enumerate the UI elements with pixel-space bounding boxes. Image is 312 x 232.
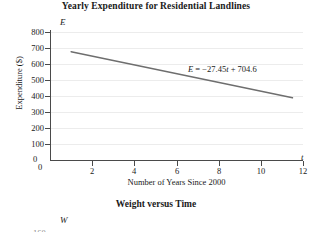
- data-line-expenditure: [50, 32, 303, 160]
- y-tick-label-160: 160: [33, 228, 46, 232]
- y-axis-line: [50, 30, 51, 161]
- y-tick-label-200: 200: [4, 124, 44, 133]
- equation-equals: =: [195, 64, 200, 74]
- x-tick-label-12: 12: [291, 167, 312, 176]
- y-tick-label-600: 600: [4, 60, 44, 69]
- y-tick-300: [45, 112, 50, 113]
- x-axis-title: Number of Years Since 2000: [50, 177, 303, 187]
- y-tick-label-300: 300: [4, 108, 44, 117]
- y-tick-label-100: 100: [4, 140, 44, 149]
- y-tick-label-500: 500: [4, 76, 44, 85]
- plot-area: [50, 32, 303, 160]
- y-tick-label-700: 700: [4, 44, 44, 53]
- expenditure-chart-figure: Yearly Expenditure for Residential Landl…: [0, 0, 312, 190]
- y-axis-variable-label: E: [60, 17, 66, 27]
- y-tick-600: [45, 64, 50, 65]
- x-tick-label-4: 4: [122, 167, 146, 176]
- x-tick-label-2: 2: [80, 167, 104, 176]
- y-tick-200: [45, 128, 50, 129]
- y-origin-label: 0: [33, 154, 37, 164]
- x-tick-label-8: 8: [207, 167, 231, 176]
- y-tick-700: [45, 48, 50, 49]
- y-axis-variable-label-2: W: [60, 215, 68, 225]
- x-origin-label: 0: [38, 162, 42, 172]
- chart-title: Yearly Expenditure for Residential Landl…: [0, 1, 312, 11]
- equation-lhs: E: [188, 64, 193, 74]
- y-axis-title: Expenditure ($): [14, 28, 24, 138]
- weight-versus-time-figure: Weight versus Time W 160: [0, 190, 312, 232]
- y-tick-100: [45, 144, 50, 145]
- y-tick-label-400: 400: [4, 92, 44, 101]
- equation-annotation: E = −27.45t + 704.6: [188, 64, 257, 74]
- equation-slope: −27.45: [202, 64, 226, 74]
- equation-intercept: 704.6: [238, 64, 257, 74]
- equation-slope-variable: t: [226, 64, 228, 74]
- x-axis-variable-label: t: [301, 152, 304, 162]
- y-tick-500: [45, 80, 50, 81]
- chart-title-2: Weight versus Time: [0, 199, 312, 209]
- equation-plus: +: [231, 64, 236, 74]
- y-tick-400: [45, 96, 50, 97]
- y-tick-label-800: 800: [4, 28, 44, 37]
- y-tick-800: [45, 32, 50, 33]
- x-tick-label-6: 6: [165, 167, 189, 176]
- x-tick-label-10: 10: [249, 167, 273, 176]
